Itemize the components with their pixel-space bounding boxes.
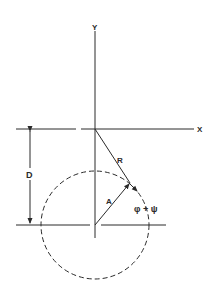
vector-a-arrow	[95, 184, 129, 225]
angle-label: φ + ψ	[134, 204, 158, 214]
geometry-diagram: Y X D A R φ + ψ	[0, 0, 214, 294]
angle-arrow	[130, 184, 137, 191]
y-axis-label: Y	[92, 23, 98, 32]
vector-r-label: R	[117, 156, 123, 165]
vector-a-label: A	[106, 197, 112, 206]
distance-label: D	[26, 170, 33, 180]
x-axis-label: X	[197, 125, 203, 134]
vector-r-line	[95, 129, 130, 183]
diagram-canvas: Y X D A R φ + ψ	[0, 0, 214, 294]
